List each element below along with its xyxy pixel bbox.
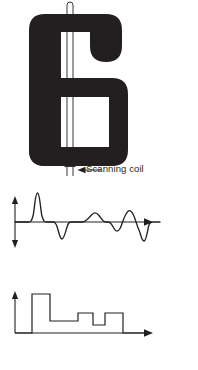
- specimen-panel: Scanning coil: [0, 0, 198, 185]
- processed-output-panel: Position Processed output: [0, 280, 198, 370]
- scanning-coil-figure: Scanning coil Position Coil output (volt…: [0, 0, 198, 370]
- scanning-coil-label: Scanning coil: [86, 163, 144, 174]
- amplitude-axis: [12, 291, 18, 333]
- character-glyph-six: [29, 14, 128, 166]
- coil-output-trace: [15, 193, 160, 241]
- processed-output-steps: [15, 294, 146, 333]
- coil-output-panel: Position Coil output (voltage): [0, 185, 198, 280]
